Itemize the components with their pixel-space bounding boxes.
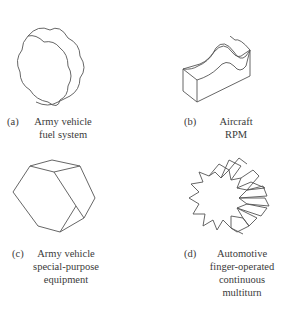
caption-line: finger-operated xyxy=(204,261,280,274)
knurled-gear-knob-icon xyxy=(185,156,280,246)
caption-line: fuel system xyxy=(29,129,97,142)
caption-line: Automotive xyxy=(204,248,280,261)
caption-label: (c) xyxy=(12,248,24,261)
caption-label: (a) xyxy=(7,116,19,129)
caption-line: RPM xyxy=(206,129,266,142)
caption-c: (c) Army vehicle special-purpose equipme… xyxy=(12,248,104,288)
caption-line: special-purpose xyxy=(28,261,104,274)
hexagonal-prism-knob-icon xyxy=(10,156,100,240)
caption-label: (b) xyxy=(184,116,196,129)
caption-line: Army vehicle xyxy=(29,116,97,129)
caption-label: (d) xyxy=(184,248,196,261)
caption-line: multiturn xyxy=(204,287,280,300)
caption-line: equipment xyxy=(28,274,104,287)
caption-line: Aircraft xyxy=(206,116,266,129)
caption-line: continuous xyxy=(204,274,280,287)
caption-line: Army vehicle xyxy=(28,248,104,261)
wavy-top-bar-knob-icon xyxy=(180,36,255,106)
caption-b: (b) Aircraft RPM xyxy=(184,116,274,142)
caption-d: (d) Automotive finger-operated continuou… xyxy=(184,248,284,302)
wavy-octagon-knob-icon xyxy=(8,20,98,110)
caption-a: (a) Army vehicle fuel system xyxy=(7,116,97,142)
